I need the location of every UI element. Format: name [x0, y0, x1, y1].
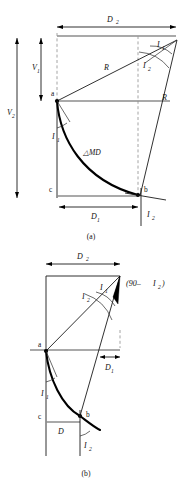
dimension-v1-a: V 1: [32, 38, 43, 101]
dimension-d2-sub-a: 2: [116, 19, 119, 25]
angle-i2-sub-at-b-b: 2: [89, 446, 92, 452]
radius-label-upper-a: R: [103, 63, 109, 72]
dimension-d1-b: D 1: [100, 355, 120, 374]
dimension-d-label-b: D: [57, 427, 64, 436]
dimension-d1-label-a: D: [90, 212, 97, 221]
dimension-d2-sub-b: 2: [86, 256, 89, 262]
angle-i1-sub-at-a: 1: [57, 137, 60, 143]
buildup-curve-extension-b: [80, 416, 100, 430]
angle-arc-i2-at-b-b: [80, 431, 90, 436]
dimension-v1-sub-a: 1: [37, 68, 40, 74]
dimension-d1-sub-b: 1: [111, 368, 114, 374]
buildup-curve-b: [46, 351, 80, 416]
point-b-label-b: b: [86, 410, 90, 419]
point-a-label-b: a: [38, 340, 42, 349]
dimension-d2-label-b: D: [76, 252, 83, 261]
angle-i1-sub-at-a-b: 1: [46, 394, 49, 400]
dimension-v2-a: V 2: [7, 38, 19, 198]
angle-i2-sub-at-b-a: 2: [152, 215, 155, 221]
angle-arc-i1-top-a: [150, 46, 172, 54]
filled-angle-wedge-b: [113, 276, 120, 304]
complement-suffix-b: ): [161, 279, 165, 288]
complement-angle-label-b: (90– I 2 ): [126, 279, 165, 290]
caption-panel-a: (a): [87, 232, 96, 241]
angle-i1-label-at-a-b: I: [40, 389, 44, 398]
angle-i1-sub-top-a: 1: [162, 45, 165, 51]
angle-i1-label-at-a: I: [51, 132, 55, 141]
complement-i-b: I: [152, 279, 156, 288]
diagram-panel-a: D 2 V 1 V 2 R: [0, 0, 182, 244]
angle-i2-label-at-b-a: I: [146, 210, 150, 219]
point-c-label-b: c: [38, 412, 42, 421]
point-a-label-a: a: [51, 89, 55, 98]
angle-i2-sub-top-a: 2: [148, 66, 151, 72]
point-b-label-a: b: [144, 185, 148, 194]
figure-root: D 2 V 1 V 2 R: [0, 0, 182, 488]
angle-i1-label-top-b: I: [99, 283, 103, 292]
dimension-d2-b: D 2: [46, 252, 120, 266]
dimension-d2-label-a: D: [106, 15, 113, 24]
dimension-d2-a: D 2: [57, 15, 176, 29]
complement-sub-b: 2: [158, 284, 161, 290]
dimension-d1-sub-a: 1: [97, 217, 100, 223]
dimension-v2-sub-a: 2: [12, 113, 15, 119]
angle-i2-label-top-a: I: [142, 61, 146, 70]
caption-panel-b: (b): [82, 469, 91, 478]
radius-label-right-a: R: [161, 93, 167, 102]
dimension-d1-label-b: D: [104, 363, 111, 372]
complement-prefix-b: (90–: [126, 279, 142, 288]
dimension-d1-a: D 1: [59, 205, 138, 223]
radius-line-upper-a: [57, 40, 177, 101]
arc-length-label-a: △MD: [82, 148, 101, 157]
angle-i1-sub-top-b: 1: [105, 288, 108, 294]
angle-i1-label-top-a: I: [156, 40, 160, 49]
diagram-panel-b: D 2 I 1 I 2 (90– I 2 ): [0, 244, 182, 488]
point-c-label-a: c: [49, 185, 53, 194]
angle-i2-label-at-b-b: I: [83, 441, 87, 450]
angle-i2-label-top-b: I: [81, 292, 85, 301]
angle-i2-sub-top-b: 2: [87, 297, 90, 303]
